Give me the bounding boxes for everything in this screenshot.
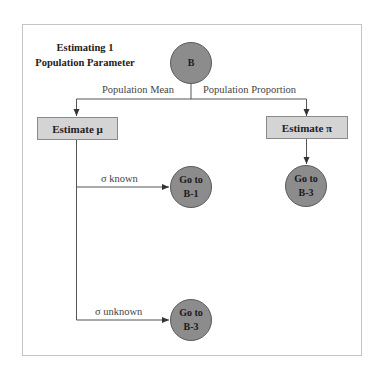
estimate-mean-label: Estimate μ — [52, 123, 103, 135]
title-line-1: Estimating 1 — [30, 40, 140, 55]
goto-b1-line1: Go to — [179, 173, 203, 187]
node-root-label: B — [188, 56, 195, 70]
edge-label-population-proportion: Population Proportion — [203, 84, 296, 95]
goto-b1-line2: B-1 — [184, 187, 199, 201]
goto-b3-unknown-line1: Go to — [179, 306, 203, 320]
node-root-b: B — [170, 42, 212, 84]
node-estimate-mean: Estimate μ — [37, 117, 118, 140]
edge-label-population-mean: Population Mean — [102, 84, 174, 95]
edge-label-sigma-known: σ known — [101, 173, 138, 184]
node-goto-b3-unknown: Go to B-3 — [170, 299, 212, 341]
title-line-2: Population Parameter — [30, 55, 140, 70]
edge-label-sigma-unknown: σ unknown — [95, 306, 142, 317]
diagram-title: Estimating 1 Population Parameter — [30, 40, 140, 70]
node-goto-b1: Go to B-1 — [170, 166, 212, 208]
node-estimate-proportion: Estimate π — [266, 116, 348, 139]
estimate-proportion-label: Estimate π — [282, 122, 332, 134]
goto-b3-unknown-line2: B-3 — [184, 320, 199, 334]
goto-b3-proportion-line2: B-3 — [299, 186, 314, 200]
goto-b3-proportion-line1: Go to — [294, 172, 318, 186]
node-goto-b3-proportion: Go to B-3 — [285, 165, 327, 207]
